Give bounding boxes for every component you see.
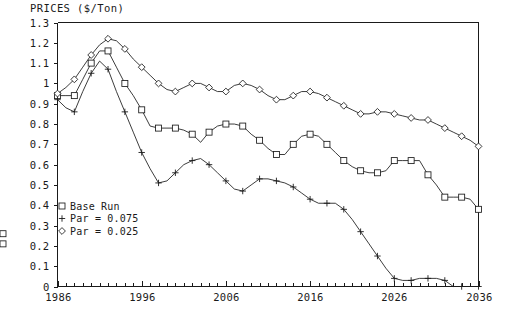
- marker-square: [156, 125, 162, 131]
- marker-square: [105, 48, 111, 54]
- marker-square: [476, 206, 482, 212]
- marker-square: [88, 60, 94, 66]
- marker-square: [206, 129, 212, 135]
- marker-cross: [357, 228, 363, 234]
- marker-square: [189, 131, 195, 137]
- x-tick-label: 2036: [466, 291, 493, 303]
- legend-item[interactable]: Base Run: [59, 201, 120, 212]
- marker-diamond: [290, 92, 297, 99]
- marker-square: [408, 158, 414, 164]
- y-tick-label: 0.6: [30, 159, 50, 171]
- marker-square: [391, 158, 397, 164]
- marker-cross: [256, 176, 262, 182]
- y-tick-label: 0.2: [30, 240, 50, 252]
- series-line: [58, 51, 479, 209]
- marker-cross: [425, 275, 431, 281]
- y-tick-label: 1: [43, 77, 50, 89]
- chart-root: PRICES ($/Ton) 00.10.20.30.40.50.60.70.8…: [0, 0, 519, 316]
- marker-square: [240, 123, 246, 129]
- chart-canvas: 00.10.20.30.40.50.60.70.80.911.11.21.319…: [0, 0, 519, 316]
- marker-square: [374, 170, 380, 176]
- series-3: [54, 35, 482, 149]
- legend-item[interactable]: Par = 0.075: [59, 213, 139, 224]
- marker-square: [358, 168, 364, 174]
- marker-square: [0, 241, 6, 247]
- marker-cross: [442, 277, 448, 283]
- marker-diamond: [357, 110, 364, 117]
- legend-label: Base Run: [70, 201, 120, 212]
- marker-cross: [71, 109, 77, 115]
- marker-cross: [290, 184, 296, 190]
- legend-item[interactable]: Par = 0.025: [59, 226, 139, 237]
- marker-cross: [189, 157, 195, 163]
- marker-square: [324, 141, 330, 147]
- marker-cross: [139, 149, 145, 155]
- marker-cross: [458, 283, 464, 289]
- marker-diamond: [256, 86, 263, 93]
- marker-diamond: [391, 110, 398, 117]
- marker-diamond: [340, 102, 347, 109]
- marker-diamond: [441, 125, 448, 132]
- marker-diamond: [239, 80, 246, 87]
- marker-diamond: [273, 96, 280, 103]
- y-tick-label: 0.5: [30, 179, 50, 191]
- marker-square: [139, 107, 145, 113]
- marker-square: [459, 194, 465, 200]
- legend-label: Par = 0.025: [70, 226, 138, 237]
- y-tick-label: 0.9: [30, 98, 50, 110]
- marker-square: [223, 121, 229, 127]
- marker-cross: [240, 188, 246, 194]
- marker-cross: [475, 283, 481, 289]
- marker-diamond: [425, 117, 432, 124]
- marker-cross: [273, 178, 279, 184]
- marker-diamond: [458, 133, 465, 140]
- x-tick-label: 1996: [129, 291, 156, 303]
- y-tick-label: 1.3: [30, 17, 50, 29]
- y-tick-label: 1.1: [30, 57, 50, 69]
- marker-cross: [155, 180, 161, 186]
- marker-cross: [374, 253, 380, 259]
- y-tick-label: 0.7: [30, 138, 50, 150]
- marker-diamond: [408, 115, 415, 122]
- marker-square: [290, 141, 296, 147]
- marker-square: [0, 231, 6, 237]
- y-tick-label: 1.2: [30, 37, 50, 49]
- marker-diamond: [307, 88, 314, 95]
- marker-square: [273, 152, 279, 158]
- y-tick-label: 0.4: [30, 199, 50, 211]
- marker-diamond: [189, 80, 196, 87]
- marker-cross: [307, 196, 313, 202]
- series-line: [58, 39, 479, 147]
- x-tick-label: 1986: [45, 291, 72, 303]
- marker-diamond: [59, 228, 66, 235]
- marker-diamond: [223, 88, 230, 95]
- marker-cross: [88, 70, 94, 76]
- marker-square: [122, 80, 128, 86]
- marker-square: [442, 194, 448, 200]
- marker-cross: [122, 109, 128, 115]
- x-tick-label: 2006: [213, 291, 240, 303]
- marker-cross: [324, 200, 330, 206]
- marker-diamond: [324, 94, 331, 101]
- legend: Base RunPar = 0.075Par = 0.025: [59, 201, 139, 237]
- marker-square: [172, 125, 178, 131]
- marker-diamond: [206, 84, 213, 91]
- y-tick-label: 0.3: [30, 220, 50, 232]
- x-tick-label: 2026: [381, 291, 408, 303]
- legend-label: Par = 0.075: [70, 213, 138, 224]
- y-tick-label: 0.8: [30, 118, 50, 130]
- x-tick-label: 2016: [297, 291, 324, 303]
- marker-cross: [59, 215, 65, 221]
- marker-square: [71, 93, 77, 99]
- marker-square: [257, 137, 263, 143]
- marker-square: [341, 158, 347, 164]
- marker-square: [425, 172, 431, 178]
- y-tick-label: 0.1: [30, 260, 50, 272]
- series-line: [58, 61, 479, 286]
- marker-diamond: [475, 143, 482, 150]
- marker-square: [307, 131, 313, 137]
- marker-cross: [408, 277, 414, 283]
- marker-diamond: [374, 108, 381, 115]
- marker-square: [59, 203, 65, 209]
- marker-diamond: [105, 35, 112, 42]
